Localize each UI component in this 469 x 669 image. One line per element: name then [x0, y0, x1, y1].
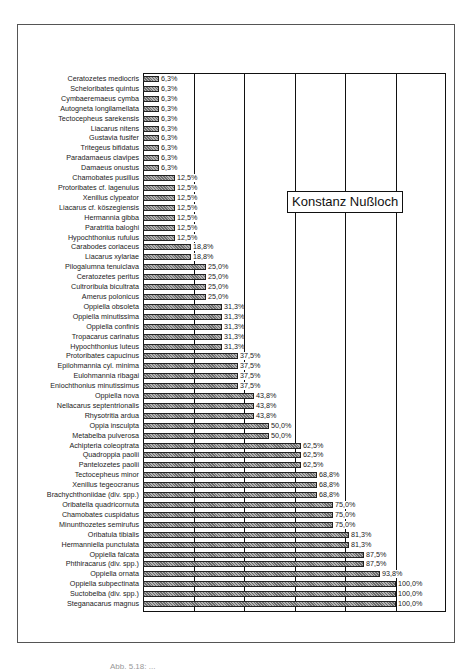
value-label: 37,5% [239, 352, 260, 360]
bar [143, 225, 175, 231]
category-label: Epilohmannia cyl. minima [0, 362, 139, 370]
bar [143, 552, 364, 558]
bar [143, 165, 159, 171]
value-label: 87,5% [365, 560, 386, 568]
category-label: Oppiella subpectinata [0, 580, 139, 588]
value-label: 12,5% [176, 194, 197, 202]
bar [143, 581, 396, 587]
value-label: 6,3% [160, 115, 177, 123]
value-label: 62,5% [302, 442, 323, 450]
bar [143, 601, 396, 607]
bar [143, 145, 159, 151]
value-label: 68,8% [318, 491, 339, 499]
value-label: 18,8% [192, 253, 213, 261]
bar [143, 86, 159, 92]
category-label: Chamobates cuspidatus [0, 511, 139, 519]
value-label: 75,0% [334, 511, 355, 519]
bar [143, 235, 175, 241]
bar [143, 294, 206, 300]
bar [143, 334, 222, 340]
value-label: 6,3% [160, 144, 177, 152]
bar [143, 532, 349, 538]
value-label: 6,3% [160, 75, 177, 83]
category-label: Steganacarus magnus [0, 600, 139, 608]
category-label: Liacarus nitens [0, 125, 139, 133]
category-label: Rhysotritia ardua [0, 412, 139, 420]
value-label: 12,5% [176, 204, 197, 212]
value-label: 43,8% [255, 392, 276, 400]
bar [143, 155, 159, 161]
category-label: Tritegeus bifidatus [0, 144, 139, 152]
value-label: 25,0% [207, 273, 228, 281]
category-label: Hypochthonius rufulus [0, 234, 139, 242]
value-label: 6,3% [160, 125, 177, 133]
bar [143, 472, 317, 478]
value-label: 62,5% [302, 461, 323, 469]
category-label: Scheloribates quintus [0, 85, 139, 93]
bar [143, 185, 175, 191]
bar [143, 561, 364, 567]
value-label: 6,3% [160, 105, 177, 113]
category-label: Oppiella obsoleta [0, 303, 139, 311]
value-label: 50,0% [270, 432, 291, 440]
value-label: 25,0% [207, 293, 228, 301]
value-label: 31,3% [223, 333, 244, 341]
category-label: Xenillus clypeator [0, 194, 139, 202]
category-label: Autogneta longilamellata [0, 105, 139, 113]
value-label: 6,3% [160, 154, 177, 162]
category-label: Eulohmannia ribagai [0, 372, 139, 380]
bar [143, 76, 159, 82]
value-label: 75,0% [334, 501, 355, 509]
category-label: Ceratozetes mediocris [0, 75, 139, 83]
category-label: Pantelozetes paolii [0, 461, 139, 469]
category-label: Oppiella confinis [0, 323, 139, 331]
bar [143, 106, 159, 112]
value-label: 6,3% [160, 85, 177, 93]
gridline [345, 74, 346, 611]
category-label: Achipteria coleoptrata [0, 442, 139, 450]
category-label: Quadroppia paolii [0, 451, 139, 459]
value-label: 81,3% [350, 531, 371, 539]
bar [143, 462, 301, 468]
bar [143, 571, 380, 577]
category-label: Oppiella falcata [0, 551, 139, 559]
value-label: 100,0% [397, 580, 422, 588]
category-label: Damaeus onustus [0, 164, 139, 172]
value-label: 43,8% [255, 402, 276, 410]
bar [143, 244, 191, 250]
value-label: 12,5% [176, 174, 197, 182]
bar [143, 205, 175, 211]
value-label: 50,0% [270, 422, 291, 430]
value-label: 6,3% [160, 134, 177, 142]
bar [143, 215, 175, 221]
category-label: Nellacarus septentrionalis [0, 402, 139, 410]
value-label: 31,3% [223, 313, 244, 321]
category-label: Metabelba pulverosa [0, 432, 139, 440]
bar [143, 403, 254, 409]
value-label: 87,5% [365, 551, 386, 559]
category-label: Phthiracarus (div. spp.) [0, 560, 139, 568]
bar [143, 443, 301, 449]
category-label: Tectocepheus sarekensis [0, 115, 139, 123]
category-label: Suctobelba (div. spp.) [0, 590, 139, 598]
bar [143, 373, 238, 379]
bar [143, 363, 238, 369]
bar [143, 591, 396, 597]
category-label: Brachychthoniidae (div. spp.) [0, 491, 139, 499]
bar [143, 284, 206, 290]
value-label: 75,0% [334, 521, 355, 529]
bar [143, 482, 317, 488]
value-label: 37,5% [239, 372, 260, 380]
category-label: Tectocepheus minor [0, 471, 139, 479]
category-label: Oribatella quadricornuta [0, 501, 139, 509]
bar [143, 353, 238, 359]
category-label: Oppiella minutissima [0, 313, 139, 321]
bar [143, 393, 254, 399]
value-label: 12,5% [176, 234, 197, 242]
value-label: 12,5% [176, 214, 197, 222]
value-label: 12,5% [176, 184, 197, 192]
category-label: Xenillus tegeocranus [0, 481, 139, 489]
bar [143, 304, 222, 310]
category-label: Liacarus cf. köszegiensis [0, 204, 139, 212]
bar [143, 195, 175, 201]
